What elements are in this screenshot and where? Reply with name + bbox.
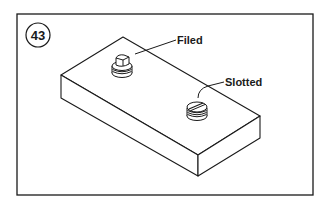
figure-number-badge: 43	[26, 23, 50, 47]
slotted-plug-icon	[187, 102, 207, 121]
figure-number: 43	[31, 28, 45, 43]
slotted-label: Slotted	[225, 76, 262, 88]
block	[61, 37, 260, 176]
diagram-canvas: 43 Filed Slott	[0, 0, 327, 209]
filed-label: Filed	[177, 34, 203, 46]
